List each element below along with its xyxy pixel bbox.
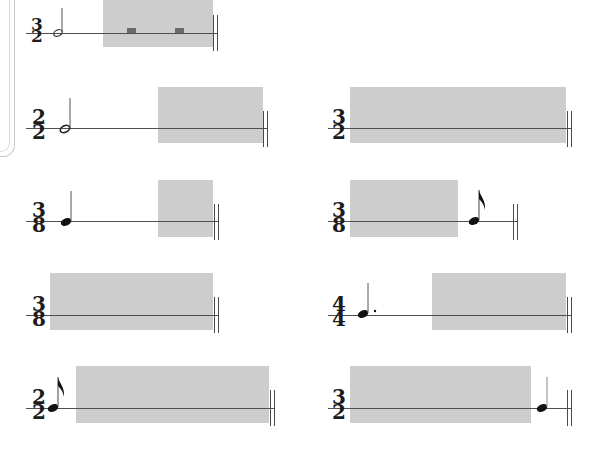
dotted-quarter-note-icon xyxy=(357,283,379,319)
highlight-box xyxy=(76,366,269,423)
time-signature: 3 8 xyxy=(32,203,46,233)
quarter-note-icon xyxy=(536,377,550,413)
barline xyxy=(567,390,568,426)
highlight-box xyxy=(158,180,213,237)
staff-line xyxy=(328,221,518,222)
eighth-note-icon xyxy=(47,377,67,413)
staff-line xyxy=(328,128,572,129)
time-signature: 3 2 xyxy=(30,18,44,42)
barline xyxy=(218,297,219,333)
time-signature: 2 2 xyxy=(32,390,46,420)
time-signature: 3 2 xyxy=(332,110,346,140)
whole-rest-icon xyxy=(127,28,136,33)
barline xyxy=(213,15,214,51)
quarter-note-icon xyxy=(60,191,74,227)
highlight-box xyxy=(350,366,531,423)
staff-line xyxy=(26,315,219,316)
barline xyxy=(567,297,568,333)
highlight-box xyxy=(103,0,213,47)
barline xyxy=(214,204,215,240)
time-signature: 2 2 xyxy=(32,110,46,140)
barline xyxy=(267,111,268,147)
barline xyxy=(218,204,219,240)
barline xyxy=(567,111,568,147)
staff-line xyxy=(26,221,219,222)
barline xyxy=(270,390,271,426)
barline xyxy=(571,111,572,147)
barline xyxy=(571,297,572,333)
highlight-box xyxy=(50,273,213,330)
eighth-note-icon xyxy=(468,190,488,226)
barline xyxy=(274,390,275,426)
highlight-box xyxy=(350,180,458,237)
time-signature: 3 2 xyxy=(332,390,346,420)
time-signature: 4 4 xyxy=(332,297,346,327)
time-signature: 3 8 xyxy=(332,203,346,233)
barline xyxy=(217,15,218,51)
panel-frame-inner-border xyxy=(0,0,10,152)
barline xyxy=(263,111,264,147)
half-note-icon xyxy=(60,97,74,133)
barline xyxy=(513,204,514,240)
barline xyxy=(571,390,572,426)
barline xyxy=(517,204,518,240)
time-signature: 3 8 xyxy=(32,297,46,327)
highlight-box xyxy=(158,87,263,143)
half-rest-icon xyxy=(175,28,184,33)
barline xyxy=(214,297,215,333)
highlight-box xyxy=(350,87,566,143)
highlight-box xyxy=(432,273,566,330)
half-note-icon xyxy=(53,6,67,38)
